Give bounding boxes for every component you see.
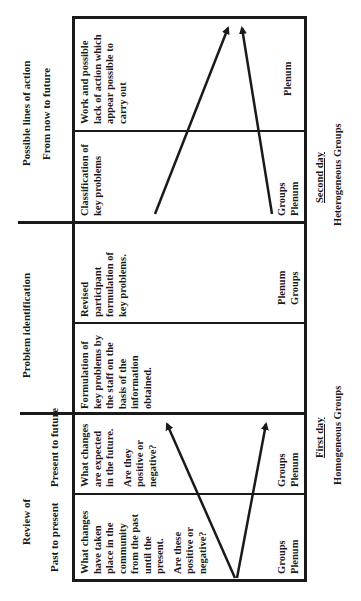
mode-label: Plenum — [282, 62, 295, 96]
footer-first-day: First day — [314, 417, 325, 458]
footer-second-day: Second day — [314, 152, 325, 203]
cell-question-line: positive or — [184, 511, 197, 574]
mode-label: Groups — [276, 540, 289, 574]
mode-label: Plenum — [289, 453, 302, 487]
cell-classification: Classification of key problems — [79, 144, 104, 216]
cell-line: appear possible to — [104, 34, 117, 124]
mode-label: Groups — [276, 453, 289, 487]
cell-past-to-present: What changes have taken place in the com… — [79, 511, 209, 574]
arrow-second-day-right — [242, 28, 272, 214]
cell-question-line: Are they — [122, 424, 135, 487]
first-day-label: First day — [314, 417, 325, 458]
cell-line: Classification of — [79, 144, 92, 216]
arrow-first-day-right — [237, 424, 266, 578]
cell-line: What changes — [79, 511, 92, 574]
cell-line: Work and possible — [79, 34, 92, 124]
cell-question-line: positive or — [134, 424, 147, 487]
header-past-to-present: Past to present — [48, 503, 60, 572]
cell-line: until the — [142, 511, 155, 574]
header-from-now-label: From now to future — [40, 68, 52, 160]
cell-lines-of-action-mode: Plenum — [282, 62, 295, 96]
cell-line: Formulation of — [79, 335, 92, 409]
footer-heterogeneous-groups: Heterogeneous Groups — [332, 123, 343, 226]
cell-staff-formulation: Formulation of key problems by the staff… — [79, 335, 154, 409]
cell-line: have taken — [92, 511, 105, 574]
cell-question-line: Are these — [172, 511, 185, 574]
cell-question-line: negative? — [197, 511, 210, 574]
header-possible-lines: Possible lines of action — [20, 61, 32, 166]
footer-homogeneous-groups: Homogeneous Groups — [332, 386, 343, 485]
cell-line: formulation of — [104, 252, 117, 317]
cell-line: present. — [154, 511, 167, 574]
cell-present-to-future-mode: Groups Plenum — [276, 453, 301, 487]
arrow-second-day-left — [155, 28, 228, 214]
cell-line: key problems. — [117, 252, 130, 317]
cell-line: community — [117, 511, 130, 574]
mode-label: Plenum — [289, 182, 302, 216]
cell-classification-mode: Groups Plenum — [276, 182, 301, 216]
cell-line: obtained. — [142, 335, 155, 409]
heterogeneous-groups-label: Heterogeneous Groups — [332, 123, 343, 226]
cell-line: key problems — [92, 144, 105, 216]
cell-line: from the past — [129, 511, 142, 574]
header-review-of: Review of — [20, 499, 32, 545]
header-present-to-future-label: Present to future — [48, 408, 60, 487]
cell-line: What changes — [79, 424, 92, 487]
cell-line: participant — [92, 252, 105, 317]
header-possible-lines-label: Possible lines of action — [20, 61, 32, 166]
cell-line: Revised — [79, 252, 92, 317]
cell-past-to-present-mode: Groups Plenum — [276, 540, 301, 574]
homogeneous-groups-label: Homogeneous Groups — [332, 386, 343, 485]
header-from-now-to-future: From now to future — [40, 68, 52, 160]
cell-line: basis of the — [117, 335, 130, 409]
cell-line: the staff on the — [104, 335, 117, 409]
header-problem-identification-label: Problem identification — [20, 273, 32, 378]
cell-present-to-future: What changes are expected in the future.… — [79, 424, 159, 487]
header-review-title: Review of — [20, 499, 32, 545]
mode-label: Plenum — [289, 540, 302, 574]
cell-line: key problems by — [92, 335, 105, 409]
cell-line: information — [129, 335, 142, 409]
mode-label: Plenum — [276, 271, 289, 305]
cell-lines-of-action: Work and possible lack of action which a… — [79, 34, 129, 124]
cell-line: carry out — [117, 34, 130, 124]
cell-line: place in the — [104, 511, 117, 574]
cell-question-line: negative? — [147, 424, 160, 487]
cell-participant-formulation-mode: Plenum Groups — [276, 271, 301, 305]
cell-line: are expected — [92, 424, 105, 487]
second-day-label: Second day — [314, 152, 325, 203]
header-problem-identification: Problem identification — [20, 273, 32, 378]
cell-participant-formulation: Revised participant formulation of key p… — [79, 252, 129, 317]
mode-label: Groups — [276, 182, 289, 216]
cell-line: lack of action which — [92, 34, 105, 124]
header-present-to-future: Present to future — [48, 408, 60, 487]
cell-line: in the future. — [104, 424, 117, 487]
mode-label: Groups — [289, 271, 302, 305]
header-past-to-present-label: Past to present — [48, 503, 60, 572]
